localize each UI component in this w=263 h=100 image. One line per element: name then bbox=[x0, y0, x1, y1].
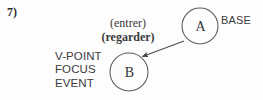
verb-entrer-label: (entrer) bbox=[86, 16, 170, 30]
role-label-event: EVENT bbox=[55, 77, 111, 90]
base-annotation-label: BASE bbox=[221, 14, 251, 26]
node-label-a: A bbox=[194, 20, 207, 34]
role-label-focus: FOCUS bbox=[55, 63, 111, 76]
role-annotation-group: V-POINT FOCUS EVENT bbox=[55, 50, 111, 90]
role-label-v-point: V-POINT bbox=[55, 50, 111, 63]
figure-container: 7) A B BASE (entrer) (regarder) V-POINT … bbox=[0, 0, 263, 100]
node-label-b: B bbox=[123, 66, 136, 80]
verb-regarder-label: (regarder) bbox=[86, 30, 170, 45]
verb-annotation-group: (entrer) (regarder) bbox=[86, 16, 170, 45]
